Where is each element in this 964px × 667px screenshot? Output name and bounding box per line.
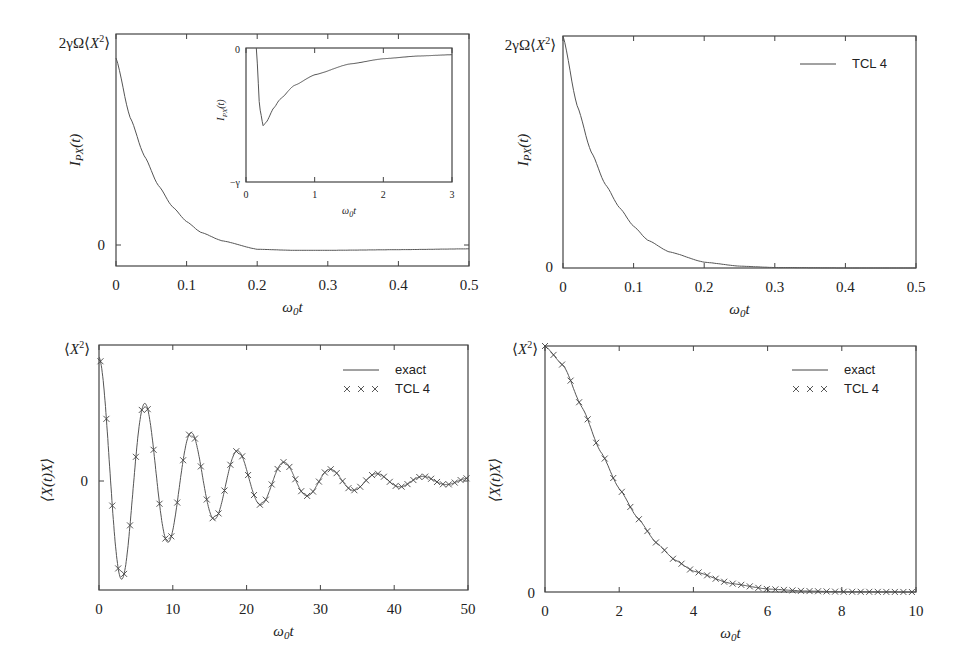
x-tick-label: 0 (541, 603, 549, 619)
legend-label: exact (395, 362, 426, 377)
x-tick-label: 10 (165, 601, 180, 617)
x-tick-label: 0.5 (460, 277, 479, 293)
y-tick-label: 0 (81, 473, 89, 489)
x-marker (807, 386, 813, 392)
y-tick-label: 0 (528, 585, 536, 601)
figure-canvas: 00.10.20.30.40.5ω0t2γΩ⟨X2⟩0IPX(t) 0123ω0… (0, 0, 964, 667)
plot-frame (246, 48, 452, 182)
x-marker (344, 386, 350, 392)
y-axis-label: IPX(t) (67, 134, 85, 168)
x-tick-label: 0.5 (907, 279, 926, 295)
x-marker (619, 489, 625, 495)
x-marker (322, 469, 328, 475)
y-axis-label: ⟨X(t)X⟩ (39, 458, 56, 502)
x-marker (713, 576, 719, 582)
y-tick-label: 0 (235, 44, 240, 55)
x-tick-label: 0 (112, 277, 120, 293)
x-tick-label: 0.3 (765, 279, 784, 295)
x-axis-label: ω0t (720, 625, 741, 643)
x-marker (239, 453, 245, 459)
x-axis-label: ω0t (729, 301, 750, 319)
x-marker (286, 464, 292, 470)
x-marker (298, 488, 304, 494)
x-marker (670, 556, 676, 562)
x-tick-label: 50 (461, 601, 476, 617)
x-marker (721, 579, 727, 585)
x-tick-label: 2 (381, 189, 386, 200)
x-marker (387, 479, 393, 485)
x-marker (551, 352, 557, 358)
x-marker (679, 561, 685, 567)
x-tick-label: 30 (313, 601, 328, 617)
plot-frame (116, 34, 469, 266)
x-tick-label: 0.4 (389, 277, 408, 293)
x-marker (393, 483, 399, 489)
x-marker (310, 489, 316, 495)
x-tick-label: 0.3 (318, 277, 337, 293)
x-tick-label: 0.1 (624, 279, 643, 295)
x-tick-label: 8 (838, 603, 846, 619)
y-tick-label: ⟨X2⟩ (64, 339, 90, 357)
x-marker (428, 476, 434, 482)
inset-curve-ipx (256, 48, 452, 126)
x-marker (696, 569, 702, 575)
x-marker (363, 477, 369, 483)
x-marker (704, 572, 710, 578)
x-tick-label: 0.1 (177, 277, 196, 293)
x-marker (610, 475, 616, 481)
x-marker (559, 362, 565, 368)
x-marker (458, 477, 464, 483)
x-marker (381, 474, 387, 480)
x-axis-label: ω0t (273, 623, 294, 641)
x-marker (369, 472, 375, 478)
y-tick-label: 2γΩ⟨X2⟩ (505, 35, 556, 53)
x-tick-label: 1 (312, 189, 317, 200)
x-tick-label: 0.2 (695, 279, 714, 295)
legend-label: TCL 4 (844, 381, 879, 396)
x-marker (192, 436, 198, 442)
y-tick-label: −γ (230, 177, 241, 188)
x-tick-label: 0.4 (836, 279, 855, 295)
panel-bottom-right: 0246810ω0t⟨X2⟩0⟨X(t)X⟩exactTCL 4 (487, 339, 924, 643)
y-axis-label: ⟨X(t)X⟩ (487, 458, 504, 502)
x-marker (568, 378, 574, 384)
x-tick-label: 10 (909, 603, 924, 619)
panel-top-left: 00.10.20.30.40.5ω0t2γΩ⟨X2⟩0IPX(t) (59, 33, 479, 317)
x-marker (821, 386, 827, 392)
x-axis-label: ω0t (342, 205, 356, 219)
x-marker (245, 472, 251, 478)
x-tick-label: 2 (615, 603, 623, 619)
x-marker (404, 481, 410, 487)
x-marker (227, 462, 233, 468)
x-marker (653, 539, 659, 545)
legend-label: TCL 4 (852, 56, 887, 71)
x-marker (793, 386, 799, 392)
x-marker (627, 504, 633, 510)
x-marker (340, 478, 346, 484)
legend-label: TCL 4 (395, 381, 430, 396)
x-marker (357, 484, 363, 490)
x-marker (636, 516, 642, 522)
x-marker (585, 416, 591, 422)
panel-bottom-left: 01020304050ω0t⟨X2⟩0⟨X(t)X⟩exactTCL 4 (39, 339, 476, 641)
x-marker (162, 536, 168, 542)
x-marker (602, 456, 608, 462)
x-marker (358, 386, 364, 392)
x-tick-label: 6 (764, 603, 772, 619)
x-marker (269, 481, 275, 487)
x-marker (186, 432, 192, 438)
y-axis-label: IPX(t) (215, 99, 229, 122)
x-marker (292, 476, 298, 482)
legend-label: exact (844, 362, 875, 377)
x-marker (216, 510, 222, 516)
x-marker (644, 528, 650, 534)
panel-top-left-inset: 0123ω0t0−γIPX(t) (215, 44, 455, 219)
x-tick-label: 40 (387, 601, 402, 617)
x-tick-label: 0 (244, 189, 249, 200)
x-marker (576, 399, 582, 405)
x-tick-label: 4 (690, 603, 698, 619)
x-axis-label: ω0t (282, 299, 303, 317)
x-marker (334, 470, 340, 476)
x-marker (687, 566, 693, 572)
x-marker (275, 466, 281, 472)
